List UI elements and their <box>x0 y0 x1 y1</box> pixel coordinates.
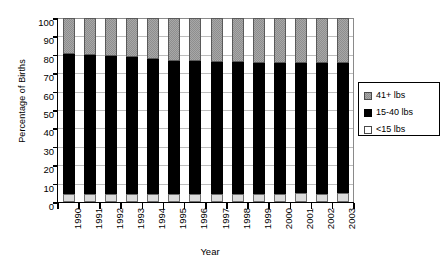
bar-group <box>337 18 349 202</box>
bar-segment <box>105 194 117 202</box>
legend-label: 15-40 lbs <box>376 108 413 117</box>
legend-swatch-black-icon <box>364 109 372 117</box>
bar-segment <box>126 18 138 57</box>
bar-segment <box>253 18 265 63</box>
x-tick-label: 2001 <box>304 208 315 229</box>
bar-segment <box>337 63 349 193</box>
bar-segment <box>84 55 96 194</box>
x-axis-title: Year <box>0 246 420 257</box>
x-tick-label: 1996 <box>198 208 209 229</box>
x-tick-label: 1998 <box>241 208 252 229</box>
bar-segment <box>274 194 286 202</box>
legend: 41+ lbs 15-40 lbs <15 lbs <box>358 82 440 136</box>
bar-segment <box>274 18 286 63</box>
bar-segment <box>147 59 159 195</box>
chart-container: Percentage of Births 1009080706050403020… <box>0 0 444 268</box>
bar-segment <box>295 193 307 202</box>
x-tick-label: 1990 <box>72 208 83 229</box>
bar-segment <box>189 194 201 202</box>
bar-segment <box>232 194 244 202</box>
bar-group <box>105 18 117 202</box>
legend-label: <15 lbs <box>376 125 405 134</box>
legend-item-under15: <15 lbs <box>364 121 439 138</box>
x-tick-label: 1997 <box>220 208 231 229</box>
bar-segment <box>295 63 307 193</box>
bar-segment <box>295 18 307 63</box>
plot-area <box>57 18 354 203</box>
x-tick-label: 2002 <box>325 208 336 229</box>
bar-segment <box>253 194 265 202</box>
bar-group <box>84 18 96 202</box>
y-tick-label: 100 <box>38 18 54 27</box>
bar-segment <box>126 57 138 193</box>
bar-segment <box>189 18 201 61</box>
bar-segment <box>105 56 117 195</box>
bar-segment <box>253 63 265 194</box>
bar-segment <box>168 194 180 202</box>
legend-swatch-gray-icon <box>364 92 372 100</box>
legend-swatch-white-icon <box>364 126 372 134</box>
x-tick-label: 1999 <box>262 208 273 229</box>
bar-segment <box>147 18 159 59</box>
bar-segment <box>316 63 328 193</box>
x-tick-label: 2000 <box>283 208 294 229</box>
bar-segment <box>232 62 244 194</box>
bar-segment <box>211 62 223 194</box>
bar-group <box>147 18 159 202</box>
x-tick-label: 1992 <box>114 208 125 229</box>
bar-segment <box>211 194 223 202</box>
x-tick-label: 1991 <box>93 208 104 229</box>
bar-segment <box>168 18 180 61</box>
bar-segment <box>63 18 75 54</box>
bar-group <box>126 18 138 202</box>
bar-group <box>232 18 244 202</box>
bar-segment <box>316 194 328 202</box>
legend-item-41plus: 41+ lbs <box>364 87 439 104</box>
bar-group <box>211 18 223 202</box>
bar-segment <box>63 54 75 194</box>
bar-segment <box>168 61 180 195</box>
bar-segment <box>274 63 286 194</box>
bar-group <box>253 18 265 202</box>
bar-segment <box>337 193 349 202</box>
bar-segment <box>337 18 349 63</box>
x-tick-label: 1995 <box>177 208 188 229</box>
x-axis-tick-labels: 1990199119921993199419951996199719981999… <box>57 208 354 242</box>
bar-group <box>63 18 75 202</box>
bar-group <box>168 18 180 202</box>
bar-segment <box>105 18 117 56</box>
x-tick-label: 1993 <box>135 208 146 229</box>
y-axis-tick-labels: 1009080706050403020100 <box>26 12 54 208</box>
bar-segment <box>126 194 138 202</box>
bar-group <box>316 18 328 202</box>
bar-segment <box>84 194 96 202</box>
bar-segment <box>63 194 75 202</box>
bar-segment <box>189 61 201 194</box>
bar-segment <box>84 18 96 55</box>
bar-segment <box>211 18 223 62</box>
bar-group <box>189 18 201 202</box>
x-tick-label: 1994 <box>156 208 167 229</box>
bar-group <box>274 18 286 202</box>
bar-segment <box>232 18 244 62</box>
bars-layer <box>58 18 354 202</box>
x-tick-label: 2003 <box>346 208 357 229</box>
bar-segment <box>316 18 328 63</box>
bar-segment <box>147 194 159 202</box>
bar-group <box>295 18 307 202</box>
legend-label: 41+ lbs <box>376 91 405 100</box>
legend-item-15-40: 15-40 lbs <box>364 104 439 121</box>
